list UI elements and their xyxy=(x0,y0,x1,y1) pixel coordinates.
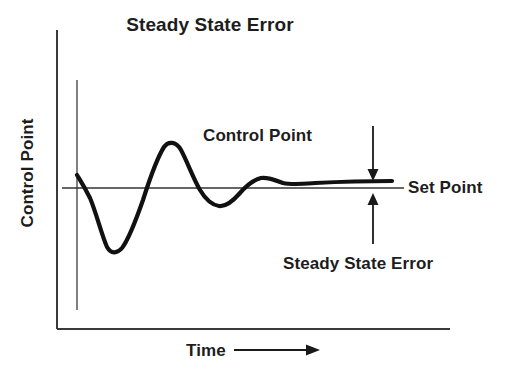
control-point-curve xyxy=(77,143,392,253)
time-arrow-head-icon xyxy=(306,345,320,356)
x-axis-label: Time xyxy=(186,341,226,361)
steady-state-error-annotation-label: Steady State Error xyxy=(283,254,433,274)
set-point-annotation-label: Set Point xyxy=(408,178,483,198)
chart-title: Steady State Error xyxy=(0,14,420,36)
control-point-annotation-label: Control Point xyxy=(203,126,312,146)
steady-state-error-figure: Steady State Error Control Point Time Co… xyxy=(0,0,514,378)
y-axis-label: Control Point xyxy=(18,108,38,238)
error-arrow-up-head-icon xyxy=(368,193,379,205)
